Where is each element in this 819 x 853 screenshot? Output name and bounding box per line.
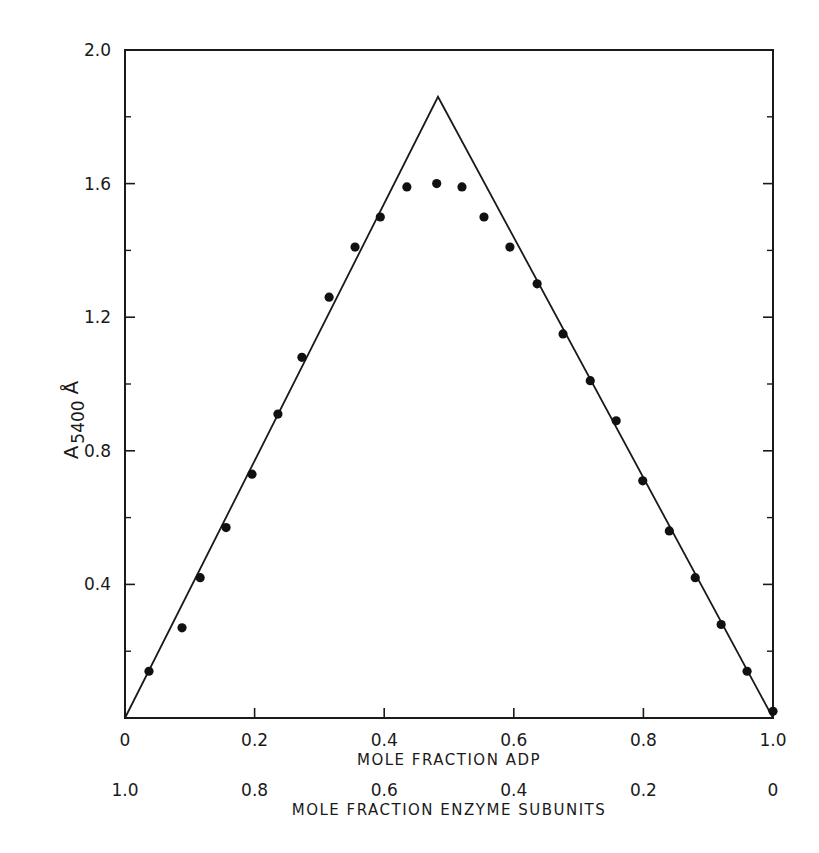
x-axis-title: MOLE FRACTION ADP — [357, 751, 541, 769]
data-point — [177, 623, 186, 632]
data-point — [665, 526, 674, 535]
x-axis-secondary-title: MOLE FRACTION ENZYME SUBUNITS — [292, 801, 607, 819]
job-plot-chart: 0.40.81.21.62.0 00.20.40.60.81.01.00.80.… — [0, 0, 819, 853]
x-tick-label: 0.6 — [500, 730, 527, 750]
x-tick-label: 1.0 — [759, 730, 786, 750]
data-point — [196, 573, 205, 582]
y-tick-label: 0.8 — [84, 441, 111, 461]
plot-frame — [125, 50, 773, 718]
x-secondary-tick-label: 0.4 — [500, 780, 527, 800]
y-tick-label: 1.6 — [84, 174, 111, 194]
data-point — [144, 667, 153, 676]
data-point — [273, 409, 282, 418]
y-axis-ticks: 0.40.81.21.62.0 — [84, 40, 773, 651]
x-secondary-tick-label: 0.8 — [241, 780, 268, 800]
x-tick-label: 0.2 — [241, 730, 268, 750]
x-tick-label: 0.8 — [630, 730, 657, 750]
data-point — [402, 182, 411, 191]
data-point — [457, 182, 466, 191]
axis-labels: MOLE FRACTION ADP MOLE FRACTION ENZYME S… — [59, 380, 606, 819]
x-secondary-tick-label: 1.0 — [111, 780, 138, 800]
data-point — [558, 329, 567, 338]
x-secondary-tick-label: 0.6 — [371, 780, 398, 800]
y-tick-label: 1.2 — [84, 307, 111, 327]
data-point — [350, 242, 359, 251]
y-tick-label: 2.0 — [84, 40, 111, 60]
data-point — [221, 523, 230, 532]
data-point — [638, 476, 647, 485]
y-axis-title-subscript: 5400 — [68, 400, 88, 443]
data-point — [297, 353, 306, 362]
data-point — [612, 416, 621, 425]
data-point — [742, 667, 751, 676]
data-point — [376, 212, 385, 221]
y-tick-label: 0.4 — [84, 574, 111, 594]
data-point — [479, 212, 488, 221]
theoretical-line — [125, 97, 773, 718]
data-point — [717, 620, 726, 629]
data-point — [432, 179, 441, 188]
data-point — [691, 573, 700, 582]
x-secondary-tick-label: 0 — [768, 780, 779, 800]
data-point — [586, 376, 595, 385]
theoretical-triangle-line — [125, 97, 773, 718]
data-point — [247, 470, 256, 479]
data-point — [768, 707, 777, 716]
data-point — [325, 293, 334, 302]
data-points — [144, 179, 777, 716]
data-point — [505, 242, 514, 251]
x-secondary-tick-label: 0.2 — [630, 780, 657, 800]
x-tick-label: 0 — [120, 730, 131, 750]
plot-border — [125, 50, 773, 718]
data-point — [533, 279, 542, 288]
x-tick-label: 0.4 — [371, 730, 398, 750]
y-axis-title-unit: Å — [59, 380, 83, 394]
y-axis-title-main: A — [59, 445, 83, 459]
